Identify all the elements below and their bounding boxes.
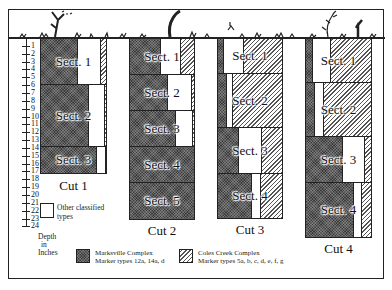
depth-tick bbox=[22, 171, 30, 172]
depth-tick bbox=[22, 187, 30, 188]
cut-2-section-2: Sect. 2 bbox=[129, 74, 195, 111]
section-label: Sect. 1 bbox=[218, 48, 282, 64]
depth-tick bbox=[22, 164, 30, 165]
depth-tick bbox=[22, 62, 30, 63]
depth-tick bbox=[22, 93, 30, 94]
cut-1-section-3: Sect. 3 bbox=[40, 146, 107, 174]
cut-3-section-2: Sect. 2 bbox=[217, 73, 283, 128]
depth-tick bbox=[22, 85, 30, 86]
depth-tick bbox=[22, 140, 30, 141]
cut-2-section-3: Sect. 3 bbox=[129, 110, 195, 147]
section-label: Sect. 2 bbox=[218, 93, 282, 109]
depth-tick bbox=[22, 156, 30, 157]
depth-tick bbox=[22, 132, 30, 133]
section-label: Sect. 1 bbox=[41, 54, 106, 70]
cut-label: Cut 3 bbox=[217, 222, 283, 238]
depth-tick bbox=[22, 195, 30, 196]
depth-tick bbox=[22, 69, 30, 70]
section-label: Sect. 5 bbox=[130, 193, 194, 209]
section-label: Sect. 4 bbox=[306, 202, 371, 218]
depth-tick bbox=[22, 46, 30, 47]
cut-3-section-3: Sect. 3 bbox=[217, 127, 283, 174]
legend-coles-creek-line2: Marker types 5a, b, c, d, e, f, g bbox=[198, 258, 284, 266]
cut-2-section-5: Sect. 5 bbox=[129, 182, 195, 220]
cut-2-section-1: Sect. 1 bbox=[129, 38, 195, 75]
depth-tick bbox=[22, 117, 30, 118]
depth-tick bbox=[22, 109, 30, 110]
section-label: Sect. 3 bbox=[130, 121, 194, 137]
section-label: Sect. 3 bbox=[306, 152, 371, 168]
cut-3-section-4: Sect. 4 bbox=[217, 173, 283, 219]
cut-label: Cut 1 bbox=[40, 178, 107, 194]
depth-tick bbox=[22, 101, 30, 102]
section-label: Sect. 3 bbox=[41, 152, 106, 168]
cut-2: Sect. 1Sect. 2Sect. 3Sect. 4Sect. 5Cut 2 bbox=[129, 0, 195, 290]
cut-3-section-1: Sect. 1 bbox=[217, 38, 283, 74]
cut-3: Sect. 1Sect. 2Sect. 3Sect. 4Cut 3 bbox=[217, 0, 283, 290]
cut-label: Cut 4 bbox=[305, 241, 372, 257]
section-label: Sect. 4 bbox=[218, 188, 282, 204]
section-label: Sect. 2 bbox=[130, 85, 194, 101]
depth-tick bbox=[22, 226, 30, 227]
cut-4: Sect. 1Sect. 2Sect. 3Sect. 4Cut 4 bbox=[305, 0, 372, 290]
section-label: Sect. 4 bbox=[130, 157, 194, 173]
section-label: Sect. 2 bbox=[41, 108, 106, 124]
depth-tick-label: 24 bbox=[31, 222, 39, 230]
legend-other-swatch bbox=[40, 203, 54, 218]
depth-tick bbox=[22, 77, 30, 78]
cut-label: Cut 2 bbox=[129, 223, 195, 239]
cut-4-section-4: Sect. 4 bbox=[305, 182, 372, 238]
depth-tick bbox=[22, 179, 30, 180]
legend-coles-creek-swatch bbox=[179, 249, 193, 263]
depth-tick bbox=[22, 124, 30, 125]
cut-4-section-1: Sect. 1 bbox=[305, 38, 372, 83]
legend-marksville-label: Marksville Complex Marker types 12a, 14a… bbox=[95, 250, 165, 265]
section-label: Sect. 3 bbox=[218, 143, 282, 159]
cut-1-section-2: Sect. 2 bbox=[40, 84, 107, 147]
legend-other-label: Other classified types bbox=[57, 203, 104, 221]
depth-tick bbox=[22, 219, 30, 220]
depth-tick bbox=[22, 203, 30, 204]
depth-tick bbox=[22, 211, 30, 212]
legend-marksville-swatch bbox=[76, 249, 90, 263]
legend-other-line1: Other classified bbox=[57, 203, 104, 212]
section-label: Sect. 2 bbox=[306, 102, 371, 118]
cut-1-section-1: Sect. 1 bbox=[40, 38, 107, 85]
cut-4-section-2: Sect. 2 bbox=[305, 82, 372, 137]
legend-other-line2: types bbox=[57, 212, 104, 221]
legend-marksville-line2: Marker types 12a, 14a, d bbox=[95, 258, 165, 266]
section-label: Sect. 1 bbox=[130, 49, 194, 65]
cut-1: Sect. 1Sect. 2Sect. 3Cut 1 bbox=[40, 0, 107, 290]
depth-tick bbox=[22, 54, 30, 55]
depth-tick bbox=[22, 148, 30, 149]
legend-coles-creek-label: Coles Creek Complex Marker types 5a, b, … bbox=[198, 250, 284, 265]
cut-2-section-4: Sect. 4 bbox=[129, 146, 195, 183]
section-label: Sect. 1 bbox=[306, 53, 371, 69]
cut-4-section-3: Sect. 3 bbox=[305, 136, 372, 183]
